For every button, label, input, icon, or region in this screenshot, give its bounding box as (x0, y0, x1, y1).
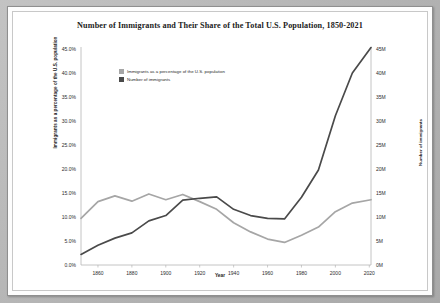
screenshot-canvas: Number of Immigrants and Their Share of … (0, 0, 440, 303)
y-tick-label-left: 45.0% (62, 46, 77, 52)
y-tick-label-left: 15.0% (62, 190, 77, 196)
y-tick-label-left: 5.0% (65, 238, 77, 244)
y-tick-label-right: 0M (376, 262, 383, 268)
y-tick-label-right: 15M (376, 190, 386, 196)
y-tick-label-right: 10M (376, 214, 386, 220)
y-tick-label-left: 20.0% (62, 166, 77, 172)
chart-legend: Immigrants as a percentage of the U.S. p… (119, 69, 225, 84)
y-tick-label-left: 0.0% (65, 262, 77, 268)
y-tick-label-right: 25M (376, 142, 386, 148)
y-tick-label-left: 40.0% (62, 70, 77, 76)
y-tick-label-left: 35.0% (62, 94, 77, 100)
y-tick-label-right: 30M (376, 118, 386, 124)
legend-swatch-number (119, 77, 124, 82)
y-tick-label-right: 45M (376, 46, 386, 52)
y-tick-label-left: 30.0% (62, 118, 77, 124)
legend-swatch-percentage (119, 69, 124, 74)
plot-area-wrapper: 0.0%5.0%10.0%15.0%20.0%25.0%30.0%35.0%40… (13, 12, 427, 290)
y-tick-label-right: 35M (376, 94, 386, 100)
y-tick-label-right: 5M (376, 238, 383, 244)
legend-item: Immigrants as a percentage of the U.S. p… (119, 69, 225, 74)
y-tick-label-right: 40M (376, 70, 386, 76)
legend-label-percentage: Immigrants as a percentage of the U.S. p… (127, 69, 225, 74)
y-axis-title-right: Number of immigrants (418, 88, 423, 198)
y-tick-label-left: 25.0% (62, 142, 77, 148)
chart-card: Number of Immigrants and Their Share of … (7, 6, 433, 296)
chart-svg: 0.0%5.0%10.0%15.0%20.0%25.0%30.0%35.0%40… (13, 12, 429, 290)
y-tick-label-right: 20M (376, 166, 386, 172)
y-tick-label-left: 10.0% (62, 214, 77, 220)
legend-label-number: Number of immigrants (127, 77, 170, 82)
x-axis-title: Year (13, 273, 427, 278)
y-axis-title-left: Immigrants as a percentage of the U.S. p… (53, 18, 58, 168)
legend-item: Number of immigrants (119, 77, 225, 82)
chart-inner-panel: Number of Immigrants and Their Share of … (12, 11, 428, 291)
